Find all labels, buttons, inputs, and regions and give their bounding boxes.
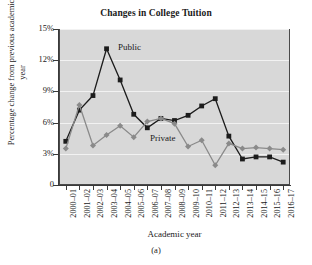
series-label-private: Private [150, 133, 176, 143]
data-point-marker [145, 125, 150, 130]
data-point-marker [199, 137, 205, 143]
y-axis-tick-mark [53, 29, 58, 30]
data-point-marker [186, 113, 191, 118]
data-point-marker [253, 145, 259, 151]
data-point-marker [240, 157, 245, 162]
data-point-marker [267, 155, 272, 160]
data-point-marker [131, 112, 136, 117]
x-axis-title: Academic year [59, 229, 290, 239]
x-axis-tick-mark [256, 186, 257, 190]
x-axis-tick-mark [161, 186, 162, 190]
x-axis-tick-mark [242, 186, 243, 190]
series-line [66, 49, 283, 162]
data-point-marker [280, 147, 286, 153]
x-axis-tick-mark [229, 186, 230, 190]
x-axis-tick-label: 2000–01 [69, 189, 78, 218]
x-axis-tick-label: 2013–14 [246, 189, 255, 218]
x-axis-tick-mark [147, 186, 148, 190]
x-axis-tick-label: 2003–04 [110, 189, 119, 218]
x-axis-tick-mark [134, 186, 135, 190]
x-axis-tick-label: 2007–08 [164, 189, 173, 218]
data-point-marker [212, 162, 218, 168]
x-axis-tick-label: 2004–05 [124, 189, 133, 218]
x-axis-tick-label: 2011–12 [219, 189, 228, 217]
x-axis-tick-mark [93, 186, 94, 190]
x-axis-tick-mark [120, 186, 121, 190]
data-point-marker [63, 146, 69, 152]
data-point-marker [91, 93, 96, 98]
y-axis-title: Percentage change from previous academic… [7, 0, 28, 153]
x-axis-tick-label: 2001–02 [83, 189, 92, 218]
y-axis-tick-mark [53, 60, 58, 61]
y-axis-tick-mark [53, 91, 58, 92]
series-public [63, 46, 285, 164]
x-axis-tick-mark [175, 186, 176, 190]
data-point-marker [118, 78, 123, 83]
y-axis-tick-mark [53, 185, 58, 186]
x-axis-tick-label: 2006–07 [151, 189, 160, 218]
data-point-marker [104, 46, 109, 51]
x-axis-tick-mark [283, 186, 284, 190]
data-point-marker [199, 104, 204, 109]
x-axis-tick-label: 2002–03 [96, 189, 105, 218]
x-axis-tick-label: 2008–09 [178, 189, 187, 218]
x-axis-tick-label: 2009–10 [192, 189, 201, 218]
x-axis-tick-label: 2016–17 [287, 189, 296, 218]
x-axis-tick-mark [66, 186, 67, 190]
x-axis-tick-mark [270, 186, 271, 190]
data-point-marker [267, 146, 273, 152]
data-point-marker [239, 146, 245, 152]
series-lines-layer [59, 29, 290, 185]
data-point-marker [226, 140, 232, 146]
x-axis-tick-label: 2015–16 [273, 189, 282, 218]
y-axis-tick-mark [53, 123, 58, 124]
figure-container: Changes in College Tuition 03%6%9%12%15%… [0, 0, 312, 265]
x-axis-tick-label: 2014–15 [260, 189, 269, 218]
x-axis-tick-mark [107, 186, 108, 190]
x-axis-tick-label: 2010–11 [205, 189, 214, 217]
data-point-marker [226, 134, 231, 139]
y-axis-tick-mark [53, 154, 58, 155]
x-axis-tick-mark [202, 186, 203, 190]
data-point-marker [254, 155, 259, 160]
figure-caption: (a) [0, 245, 312, 255]
data-point-marker [281, 160, 286, 165]
y-axis-tick-label: 0 [6, 180, 54, 189]
x-axis-tick-mark [79, 186, 80, 190]
x-axis-tick-label: 2005–06 [137, 189, 146, 218]
x-axis-tick-label: 2012–13 [232, 189, 241, 218]
data-point-marker [213, 96, 218, 101]
x-axis-tick-mark [188, 186, 189, 190]
series-label-public: Public [118, 42, 141, 52]
x-axis-tick-mark [215, 186, 216, 190]
data-point-marker [185, 144, 191, 150]
